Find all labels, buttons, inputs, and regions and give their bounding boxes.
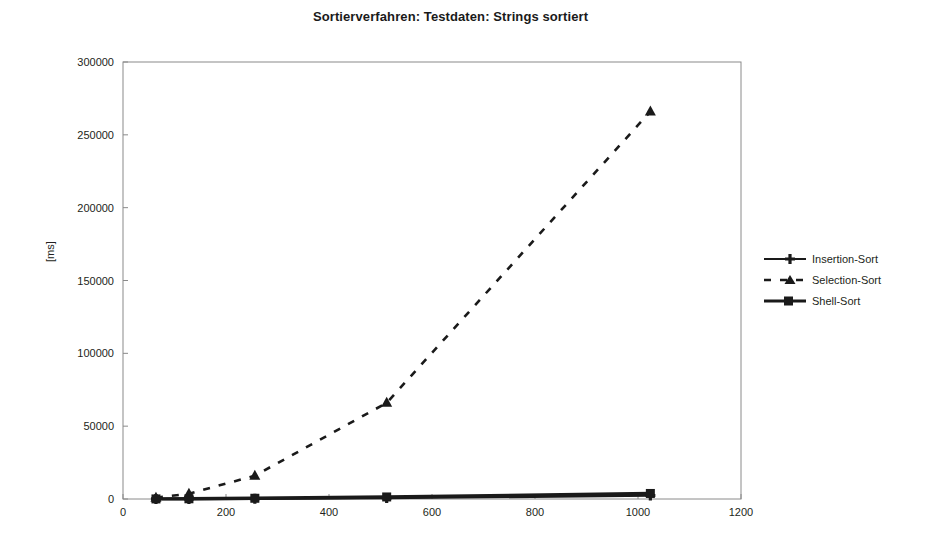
y-tick-label: 100000 <box>77 347 114 359</box>
x-tick-label: 400 <box>320 506 338 518</box>
x-tick-label: 1000 <box>626 506 650 518</box>
tick-labels: 0500001000001500002000002500003000000200… <box>77 56 753 518</box>
y-tick-label: 0 <box>108 493 114 505</box>
legend-item-selection-sort: Selection-Sort <box>762 269 932 290</box>
chart-figure: Sortierverfahren: Testdaten: Strings sor… <box>0 0 933 556</box>
y-tick-label: 50000 <box>83 420 114 432</box>
legend-label-selection-sort: Selection-Sort <box>808 274 881 286</box>
x-tick-label: 200 <box>217 506 235 518</box>
square-marker-icon <box>762 293 808 309</box>
y-tick-label: 150000 <box>77 275 114 287</box>
chart-legend: Insertion-Sort Selection-Sort Shell-Sort <box>762 248 932 311</box>
legend-label-shell-sort: Shell-Sort <box>808 295 860 307</box>
legend-item-insertion-sort: Insertion-Sort <box>762 248 932 269</box>
y-axis-label: [ms] <box>44 241 56 262</box>
axes <box>123 62 741 499</box>
triangle-marker-icon <box>762 272 808 288</box>
plus-marker-icon <box>762 251 808 267</box>
y-tick-label: 250000 <box>77 129 114 141</box>
x-tick-label: 800 <box>526 506 544 518</box>
x-tick-label: 600 <box>423 506 441 518</box>
legend-label-insertion-sort: Insertion-Sort <box>808 253 878 265</box>
series-selection-sort <box>150 106 655 502</box>
legend-item-shell-sort: Shell-Sort <box>762 290 932 311</box>
x-tick-label: 0 <box>120 506 126 518</box>
y-tick-label: 300000 <box>77 56 114 68</box>
data-series <box>150 106 655 504</box>
y-tick-label: 200000 <box>77 202 114 214</box>
x-tick-label: 1200 <box>729 506 753 518</box>
